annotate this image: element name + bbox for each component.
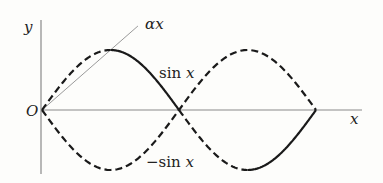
origin-label: O bbox=[26, 102, 38, 120]
neg-sin-x-label: −sin x bbox=[146, 153, 195, 171]
x-axis-label: x bbox=[350, 110, 359, 128]
figure: y x O αx sin x −sin x bbox=[0, 0, 383, 183]
sin-curve-solid-segment-2 bbox=[248, 110, 317, 170]
alpha-x-label: αx bbox=[145, 15, 164, 33]
sin-x-label: sin x bbox=[159, 64, 195, 82]
alpha-x-line bbox=[42, 26, 138, 110]
plot-canvas: y x O αx sin x −sin x bbox=[0, 0, 383, 183]
y-axis-label: y bbox=[23, 18, 33, 36]
